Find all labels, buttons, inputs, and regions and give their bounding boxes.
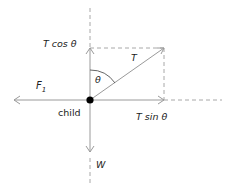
f1-label: F1 bbox=[36, 80, 46, 94]
diagram-graphics bbox=[0, 0, 226, 192]
tension-label: T bbox=[131, 52, 137, 63]
theta-label: θ bbox=[95, 74, 101, 85]
weight-label: W bbox=[96, 159, 105, 170]
child-label: child bbox=[58, 107, 81, 118]
theta-arc bbox=[90, 70, 115, 83]
child-dot bbox=[86, 96, 93, 103]
f1-sub: 1 bbox=[42, 86, 46, 94]
t-cos-text: T cos θ bbox=[43, 38, 77, 49]
t-cos-label: T cos θ bbox=[43, 38, 77, 49]
force-diagram: T cos θ T θ F1 child T sin θ W bbox=[0, 0, 226, 192]
t-sin-label: T sin θ bbox=[136, 111, 167, 122]
tension-vector bbox=[90, 48, 164, 100]
